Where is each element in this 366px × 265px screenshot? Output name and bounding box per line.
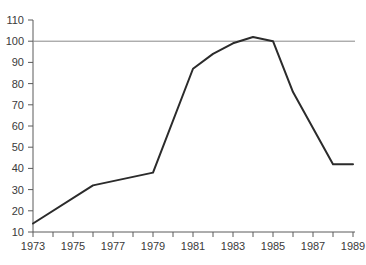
y-tick-label: 50 [0,141,24,153]
y-tick-label: 60 [0,120,24,132]
y-tick-label: 110 [0,14,24,26]
x-tick-label: 1977 [101,240,125,252]
y-tick-label: 10 [0,226,24,238]
x-tick-label: 1975 [61,240,85,252]
y-tick-label: 100 [0,35,24,47]
y-tick-label: 80 [0,78,24,90]
y-tick-label: 30 [0,184,24,196]
line-chart: 102030405060708090100110 197319751977197… [0,0,366,265]
axes-group [33,20,355,232]
y-tick-label: 40 [0,162,24,174]
y-tick-label: 70 [0,99,24,111]
x-tick-label: 1979 [141,240,165,252]
x-tick-label: 1985 [261,240,285,252]
plot-area [0,0,366,265]
y-tick-label: 20 [0,205,24,217]
y-tick-label: 90 [0,56,24,68]
x-tick-label: 1983 [221,240,245,252]
data-series-line [33,37,353,224]
x-tick-label: 1987 [301,240,325,252]
x-tick-label: 1989 [341,240,365,252]
y-axis-ticks [28,20,33,232]
x-tick-label: 1973 [21,240,45,252]
x-tick-label: 1981 [181,240,205,252]
x-axis-ticks [33,232,353,237]
